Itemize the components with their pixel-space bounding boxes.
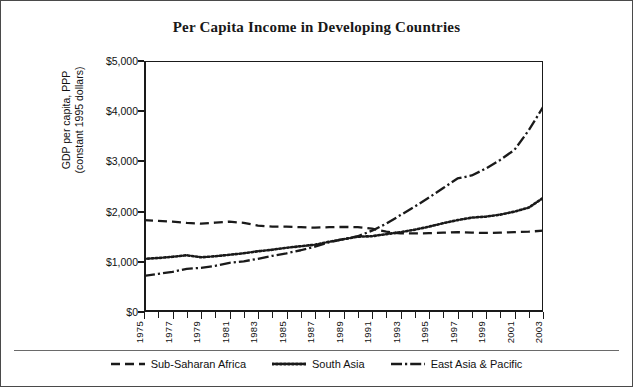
- x-axis-labels: 1975197719791981198319851987198919911993…: [144, 321, 544, 351]
- x-tick-mark: [458, 312, 459, 319]
- x-tick-mark: [486, 312, 487, 319]
- x-tick-mark: [500, 312, 501, 318]
- x-tick-label: 1999: [476, 321, 487, 343]
- x-tick-label: 1991: [362, 321, 373, 343]
- x-tick-label: 2003: [533, 321, 544, 343]
- x-tick-label: 1979: [191, 321, 202, 343]
- series-lines: [144, 61, 543, 312]
- series-line: [144, 198, 543, 259]
- chart-figure: Per Capita Income in Developing Countrie…: [0, 0, 633, 387]
- x-tick-label: 1987: [305, 321, 316, 343]
- x-tick-label: 1985: [276, 321, 287, 343]
- legend-item[interactable]: East Asia & Pacific: [391, 358, 523, 370]
- y-tick-label: $0: [126, 306, 138, 318]
- x-tick-label: 2001: [504, 321, 515, 343]
- y-axis-title: GDP per capita, PPP (constant 1995 dolla…: [60, 40, 86, 200]
- x-tick-mark: [401, 312, 402, 319]
- x-tick-mark: [187, 312, 188, 318]
- x-tick-mark: [429, 312, 430, 319]
- x-tick-mark: [258, 312, 259, 319]
- legend-item[interactable]: South Asia: [272, 358, 365, 370]
- x-tick-mark: [144, 312, 145, 319]
- y-tick-label: $1,000: [106, 256, 138, 268]
- x-tick-mark: [215, 312, 216, 318]
- x-tick-mark: [344, 312, 345, 319]
- x-tick-mark: [515, 312, 516, 319]
- x-tick-label: 1975: [134, 321, 145, 343]
- y-tick-label: $5,000: [106, 55, 138, 67]
- x-tick-mark: [415, 312, 416, 318]
- x-tick-mark: [201, 312, 202, 319]
- x-tick-mark: [329, 312, 330, 318]
- x-tick-mark: [158, 312, 159, 318]
- x-tick-mark: [301, 312, 302, 318]
- legend-swatch-dotted-icon: [272, 360, 306, 368]
- x-tick-mark: [244, 312, 245, 318]
- x-tick-mark: [272, 312, 273, 318]
- x-tick-mark: [173, 312, 174, 319]
- x-tick-mark: [386, 312, 387, 318]
- plot-area: [144, 61, 543, 312]
- chart-legend: Sub-Saharan AfricaSouth AsiaEast Asia & …: [1, 358, 632, 370]
- x-tick-label: 1981: [219, 321, 230, 343]
- x-tick-mark: [443, 312, 444, 318]
- x-tick-mark: [230, 312, 231, 319]
- x-tick-mark: [472, 312, 473, 318]
- y-axis: GDP per capita, PPP (constant 1995 dolla…: [1, 1, 144, 388]
- x-tick-mark: [529, 312, 530, 318]
- x-tick-mark: [372, 312, 373, 319]
- x-tick-mark: [315, 312, 316, 319]
- x-tick-mark: [543, 312, 544, 319]
- y-tick-label: $4,000: [106, 105, 138, 117]
- x-tick-label: 1977: [162, 321, 173, 343]
- series-line: [144, 107, 543, 276]
- x-tick-label: 1989: [333, 321, 344, 343]
- x-tick-label: 1993: [390, 321, 401, 343]
- legend-label: Sub-Saharan Africa: [151, 358, 246, 370]
- legend-label: South Asia: [312, 358, 365, 370]
- x-tick-mark: [287, 312, 288, 319]
- legend-divider: [14, 350, 619, 351]
- y-tick-label: $2,000: [106, 206, 138, 218]
- legend-swatch-dashdot-icon: [391, 360, 425, 368]
- x-tick-label: 1997: [447, 321, 458, 343]
- legend-label: East Asia & Pacific: [431, 358, 523, 370]
- x-tick-mark: [358, 312, 359, 318]
- legend-swatch-dashed-icon: [111, 360, 145, 368]
- legend-item[interactable]: Sub-Saharan Africa: [111, 358, 246, 370]
- x-tick-label: 1983: [248, 321, 259, 343]
- series-line: [144, 220, 543, 233]
- x-tick-label: 1995: [419, 321, 430, 343]
- y-tick-label: $3,000: [106, 155, 138, 167]
